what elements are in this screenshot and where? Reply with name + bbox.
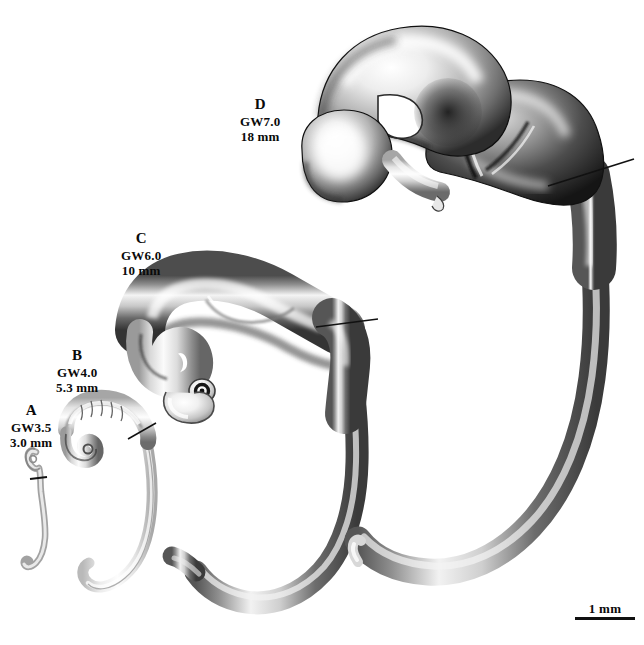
specimen-size-d: 18 mm <box>240 129 280 144</box>
embryo-development-figure: A GW3.5 3.0 mm B GW4.0 5.3 mm C GW6.0 10… <box>0 0 644 645</box>
specimen-size-b: 5.3 mm <box>56 380 98 395</box>
scale-bar-line <box>575 617 635 620</box>
specimen-d-drawing <box>302 26 634 572</box>
measurement-tick-b <box>128 423 156 439</box>
specimen-label-a: A GW3.5 3.0 mm <box>10 402 52 450</box>
specimen-size-a: 3.0 mm <box>10 435 52 450</box>
measurement-tick-d <box>548 159 634 186</box>
specimen-age-a: GW3.5 <box>10 420 52 435</box>
measurement-tick-a <box>30 477 47 479</box>
scale-bar-label: 1 mm <box>575 602 635 616</box>
specimen-a-drawing <box>24 448 47 567</box>
specimen-letter-b: B <box>56 347 98 365</box>
specimen-letter-a: A <box>10 402 52 420</box>
specimen-label-c: C GW6.0 10 mm <box>121 230 161 278</box>
specimen-label-b: B GW4.0 5.3 mm <box>56 347 98 395</box>
embryo-illustration <box>0 0 644 645</box>
specimen-letter-c: C <box>121 230 161 248</box>
specimen-age-d: GW7.0 <box>240 114 280 129</box>
specimen-age-c: GW6.0 <box>121 248 161 263</box>
specimen-letter-d: D <box>240 96 280 114</box>
scale-bar: 1 mm <box>575 602 635 620</box>
specimen-age-b: GW4.0 <box>56 365 98 380</box>
specimen-label-d: D GW7.0 18 mm <box>240 96 280 144</box>
specimen-b-drawing <box>66 398 156 589</box>
specimen-size-c: 10 mm <box>121 263 161 278</box>
specimen-c-drawing <box>139 276 378 603</box>
measurement-tick-c <box>316 319 378 327</box>
